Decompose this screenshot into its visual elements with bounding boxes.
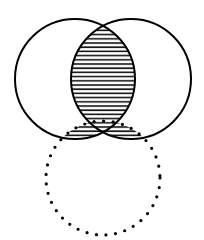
venn-diagram — [0, 0, 204, 240]
